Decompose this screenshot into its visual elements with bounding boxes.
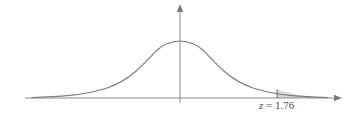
normal-curve-plot (0, 0, 359, 122)
normal-curve-figure: z = 1.76 (0, 0, 359, 122)
horizontal-axis-arrow-icon (334, 95, 342, 101)
vertical-axis-arrow-icon (177, 4, 183, 12)
